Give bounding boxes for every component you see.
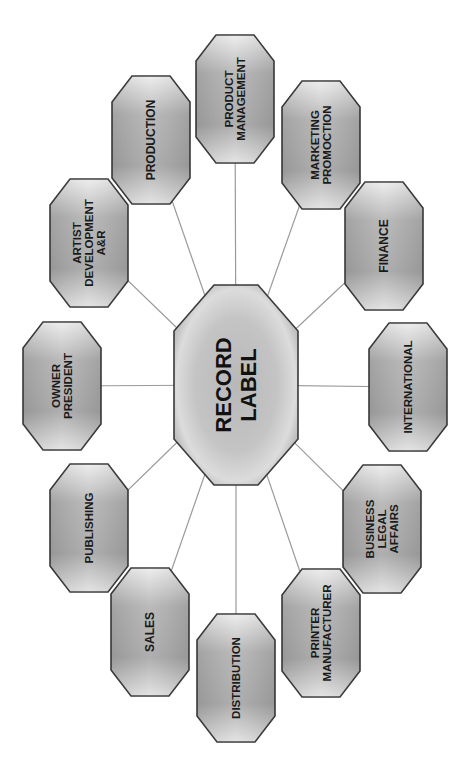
node-production: PRODUCTION: [112, 76, 190, 204]
node-record-label-center: RECORDLABEL: [174, 285, 298, 485]
node-label-line: PROMOCTION: [321, 105, 333, 184]
node-label-line: ARTIST: [71, 222, 83, 264]
node-international: INTERNATIONAL: [369, 323, 447, 451]
node-label-line: DEVELOPMENT: [83, 199, 95, 287]
node-label-line: AFFAIRS: [388, 504, 400, 554]
node-label-line: SALES: [143, 612, 157, 652]
node-sales: SALES: [111, 568, 189, 696]
node-label-line: LEGAL: [376, 510, 388, 549]
record-label-diagram: PRODUCTMANAGEMENTMARKETINGPROMOCTIONFINA…: [0, 0, 476, 778]
node-label-line: PRODUCT: [223, 71, 235, 128]
node-label-line: INTERNATIONAL: [402, 340, 414, 433]
node-finance: FINANCE: [345, 182, 423, 310]
center-label-line: RECORD: [211, 337, 236, 432]
node-owner-president: OWNERPRESIDENT: [23, 322, 101, 450]
node-label-line: OWNER: [50, 363, 62, 408]
node-artist-development: ARTISTDEVELOPMENTA&R: [50, 179, 128, 307]
node-label-line: PRINTER: [309, 607, 321, 658]
node-label-line: MANAGEMENT: [235, 57, 247, 141]
node-product-management: PRODUCTMANAGEMENT: [196, 35, 274, 163]
node-label-line: PRODUCTION: [144, 100, 158, 181]
node-label-line: PUBLISHING: [83, 492, 95, 563]
node-business-legal-affairs: BUSINESSLEGALAFFAIRS: [343, 465, 421, 593]
node-label-line: FINANCE: [377, 219, 391, 272]
node-printer-manufacturer: PRINTERMANUFACTURER: [282, 569, 360, 697]
node-label-line: A&R: [95, 230, 107, 256]
node-label-line: MANUFACTURER: [321, 584, 333, 682]
node-marketing-promotion: MARKETINGPROMOCTION: [282, 81, 360, 209]
node-label-line: PRESIDENT: [62, 353, 74, 419]
node-publishing: PUBLISHING: [50, 464, 128, 592]
node-label-line: MARKETING: [309, 110, 321, 180]
node-label-line: BUSINESS: [364, 499, 376, 558]
node-label-line: DISTRIBUTION: [230, 637, 242, 719]
node-distribution: DISTRIBUTION: [197, 614, 275, 742]
center-label-line: LABEL: [236, 348, 261, 421]
center-node-layer: RECORDLABEL: [174, 285, 298, 485]
